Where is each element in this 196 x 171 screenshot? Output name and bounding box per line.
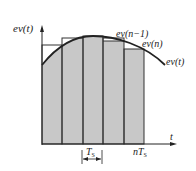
x-axis-arrow-icon [170,142,177,146]
sampling-period-label: TS [86,146,95,158]
x-axis-label: t [170,131,173,142]
sampled-integral-diagram: ev(t) ev(n−1) ev(n) ev(t) t TS nTS [0,0,196,171]
shaded-area [42,36,144,144]
curve-label: ev(t) [166,56,185,68]
label-ev-n: ev(n) [142,38,163,50]
y-axis-arrow-icon [40,25,44,32]
end-time-label: nTS [133,146,147,158]
y-axis-label: ev(t) [13,22,33,35]
